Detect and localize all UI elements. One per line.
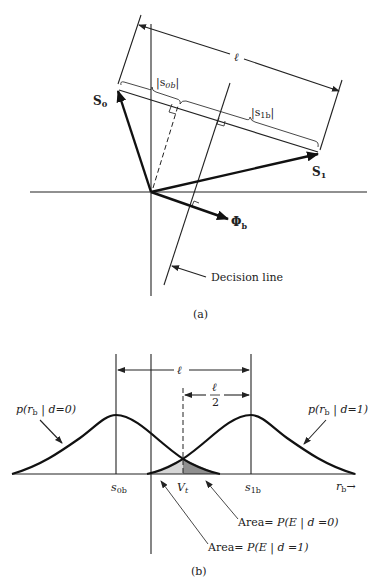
tick-label-s0b: s0b [111, 481, 127, 495]
length-label-b: ℓ [177, 364, 182, 377]
vector-s0-label: S0 [93, 94, 108, 109]
caption-b: (b) [191, 565, 207, 578]
pdf-label-d1: p(rb | d=1) [308, 403, 368, 417]
brace-s1b [180, 101, 318, 147]
area-d0-pointer [206, 481, 238, 519]
s0b-label: |s0b| [156, 76, 179, 90]
extension-line-left [118, 15, 141, 84]
area-label-d0: Area= P(E | d =0) [237, 516, 338, 530]
right-angle-marker-phi [192, 201, 199, 206]
length-label: ℓ [234, 51, 239, 64]
half-length-numerator: ℓ [212, 381, 217, 394]
vector-phi-b [151, 192, 228, 219]
pdf-label-d0: p(rb | d=0) [16, 403, 76, 417]
signal-space-figure: ℓ |s0b| |s1b| S0 S1 Φb Decision line (a) [0, 0, 382, 585]
vector-s1-label: S1 [312, 165, 326, 180]
decision-line-pointer [172, 266, 206, 277]
length-dimension-left [139, 25, 230, 54]
panel-a: ℓ |s0b| |s1b| S0 S1 Φb Decision line (a) [30, 15, 367, 321]
pdf-label-d0-pointer [40, 420, 62, 443]
tick-label-vt: Vt [177, 481, 189, 495]
s0-s1-segment [119, 90, 318, 152]
tick-label-s1b: s1b [245, 481, 261, 495]
vector-phi-label: Φb [231, 215, 247, 231]
vector-s0 [118, 91, 151, 192]
axis-label-rb: rb→ [336, 480, 356, 494]
pdf-label-d1-pointer [304, 420, 326, 444]
projection-dashed-line [153, 106, 178, 188]
panel-b: ℓ ℓ 2 p(rb | d=0) p(rb | d=1) s0b Vt s1b… [12, 354, 368, 578]
s1b-label: |s1b| [251, 106, 274, 120]
area-label-d1: Area= P(E | d =1) [207, 541, 308, 555]
caption-a: (a) [193, 308, 208, 321]
vector-s1 [151, 154, 318, 192]
half-length-denominator: 2 [212, 396, 219, 409]
length-dimension-right [244, 59, 339, 91]
decision-line-label: Decision line [211, 271, 283, 284]
